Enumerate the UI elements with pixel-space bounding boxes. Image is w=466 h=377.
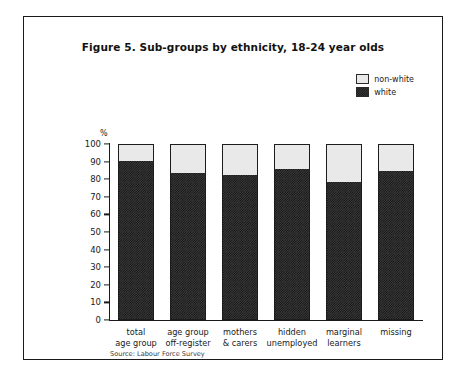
y-tick-mark <box>104 231 109 232</box>
bar-segment-white[interactable] <box>379 171 413 319</box>
y-tick-mark <box>104 196 109 197</box>
y-tick-label: 30 <box>90 262 101 272</box>
legend-label-non-white: non-white <box>374 75 414 84</box>
bar-group: hiddenunemployed <box>274 144 310 320</box>
bar-segment-white[interactable] <box>119 161 153 319</box>
bar-segment-non-white[interactable] <box>327 145 361 182</box>
bar-series-layer: totalage groupage groupoff-registermothe… <box>110 144 422 320</box>
stacked-bar[interactable] <box>118 144 154 320</box>
x-axis-label: totalage group <box>115 327 157 348</box>
bar-group: mothers& carers <box>222 144 258 320</box>
chart-title: Figure 5. Sub-groups by ethnicity, 18-24… <box>24 41 442 53</box>
y-tick-label: 10 <box>90 297 101 307</box>
x-axis-label: hiddenunemployed <box>267 327 318 348</box>
bar-group: age groupoff-register <box>170 144 206 320</box>
y-tick-mark <box>104 179 109 180</box>
bar-segment-white[interactable] <box>223 175 257 319</box>
y-tick-label: 100 <box>85 139 101 149</box>
source-note: Source: Labour Force Survey <box>110 350 205 358</box>
stacked-bar[interactable] <box>222 144 258 320</box>
y-tick-mark <box>104 284 109 285</box>
bar-segment-white[interactable] <box>171 173 205 319</box>
y-tick-label: 0 <box>96 315 101 325</box>
y-tick-label: 40 <box>90 245 101 255</box>
bar-segment-white[interactable] <box>275 169 309 319</box>
y-tick-label: 80 <box>90 174 101 184</box>
legend-item-white: white <box>356 87 414 97</box>
stacked-bar[interactable] <box>170 144 206 320</box>
y-tick-mark <box>104 302 109 303</box>
x-axis-label: marginallearners <box>326 327 362 348</box>
x-axis-label: missing <box>380 327 411 338</box>
y-tick-label: 20 <box>90 280 101 290</box>
bar-segment-non-white[interactable] <box>119 145 153 161</box>
legend-item-non-white: non-white <box>356 74 414 84</box>
bar-segment-white[interactable] <box>327 182 361 319</box>
plot-area: 0102030405060708090100 totalage groupage… <box>110 144 422 320</box>
y-tick-label: 50 <box>90 227 101 237</box>
x-axis-line <box>109 320 423 321</box>
bar-segment-non-white[interactable] <box>171 145 205 173</box>
y-tick-mark <box>104 214 109 215</box>
stacked-bar[interactable] <box>378 144 414 320</box>
x-axis-label: age groupoff-register <box>165 327 210 348</box>
y-tick-mark <box>104 319 109 320</box>
legend-label-white: white <box>374 88 396 97</box>
legend-swatch-non-white <box>356 74 369 84</box>
legend-swatch-white <box>356 87 369 97</box>
y-tick-label: 60 <box>90 209 101 219</box>
y-tick-mark <box>104 143 109 144</box>
chart-legend: non-white white <box>356 74 414 97</box>
bar-group: totalage group <box>118 144 154 320</box>
stacked-bar[interactable] <box>274 144 310 320</box>
y-tick-mark <box>104 249 109 250</box>
bar-segment-non-white[interactable] <box>223 145 257 175</box>
y-tick-label: 90 <box>90 157 101 167</box>
y-tick-mark <box>104 267 109 268</box>
figure-frame: Figure 5. Sub-groups by ethnicity, 18-24… <box>23 16 443 360</box>
y-tick-label: 70 <box>90 192 101 202</box>
stacked-bar[interactable] <box>326 144 362 320</box>
y-tick-mark <box>104 161 109 162</box>
bar-segment-non-white[interactable] <box>379 145 413 171</box>
bar-segment-non-white[interactable] <box>275 145 309 169</box>
bar-group: marginallearners <box>326 144 362 320</box>
x-axis-label: mothers& carers <box>223 327 257 348</box>
bar-group: missing <box>378 144 414 320</box>
y-axis-unit-label: % <box>100 129 108 138</box>
